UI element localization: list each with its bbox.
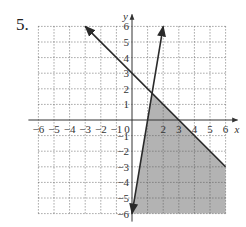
y-tick-label: −6 [117,208,129,220]
x-tick-label: −6 [33,123,45,135]
y-tick-label: −4 [117,176,129,188]
x-tick-label: 2 [160,123,166,135]
y-tick-label: 4 [124,52,130,64]
x-tick-label: −4 [64,123,76,135]
x-axis-label: x [234,123,240,135]
y-tick-label: −1 [117,130,129,142]
y-tick-label: 1 [124,98,130,110]
y-tick-label: −3 [117,161,129,173]
x-tick-label: −3 [79,123,91,135]
x-tick-label: 3 [176,123,182,135]
y-tick-label: −5 [117,192,129,204]
y-axis-label: y [122,10,128,22]
x-tick-label: 5 [207,123,213,135]
y-tick-label: 5 [124,36,130,48]
x-tick-label: −2 [95,123,107,135]
x-tick-label: −5 [48,123,60,135]
coordinate-graph: −6−5−4−3−2−1023456−6−5−4−3−2−1123456xy [0,0,246,227]
x-tick-label: 6 [223,123,229,135]
y-tick-label: −2 [117,145,129,157]
y-tick-label: 2 [124,83,130,95]
x-tick-label: 4 [192,123,198,135]
y-tick-label: 3 [124,67,130,79]
